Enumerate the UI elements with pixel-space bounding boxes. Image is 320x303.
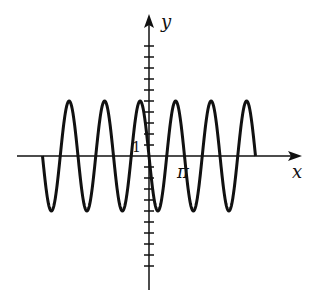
pi-tick-label: π — [176, 161, 190, 182]
y-axis-label: y — [160, 11, 172, 32]
sine-graph: y x π 1 — [0, 0, 320, 303]
x-axis-label: x — [292, 161, 302, 182]
one-tick-label: 1 — [132, 139, 141, 155]
